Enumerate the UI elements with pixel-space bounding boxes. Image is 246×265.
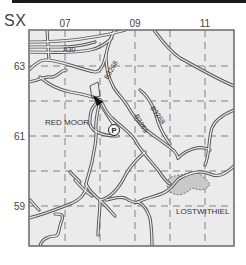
road-label-a30: A30 [63, 46, 76, 53]
parking-icon[interactable]: P [109, 125, 120, 136]
parking-symbol: P [111, 126, 116, 135]
place-label-lostwithiel: LOSTWITHIEL [176, 207, 230, 216]
map-canvas[interactable]: A30 B3268 B3268 B3269 P RED MOOR LOSTWIT… [0, 0, 246, 265]
place-label-red-moor: RED MOOR [45, 118, 89, 127]
